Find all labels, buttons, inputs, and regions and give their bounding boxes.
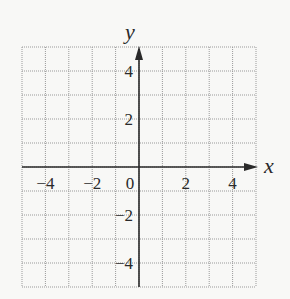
y-tick-label: −2 — [115, 206, 133, 225]
axes — [22, 46, 258, 287]
y-tick-label: 2 — [125, 110, 134, 129]
y-axis-arrow-icon — [135, 46, 143, 60]
coordinate-plane: x y −4−2024 −4−224 — [0, 0, 290, 299]
x-tick-label: −4 — [36, 174, 55, 193]
x-tick-label: 0 — [126, 174, 135, 193]
x-axis-label: x — [263, 153, 274, 178]
y-tick-label: −4 — [115, 254, 134, 273]
x-tick-labels: −4−2024 — [36, 174, 237, 193]
x-tick-label: 2 — [182, 174, 191, 193]
x-tick-label: −2 — [83, 174, 101, 193]
x-tick-label: 4 — [228, 174, 237, 193]
y-tick-label: 4 — [125, 62, 134, 81]
y-axis-label: y — [123, 19, 135, 44]
